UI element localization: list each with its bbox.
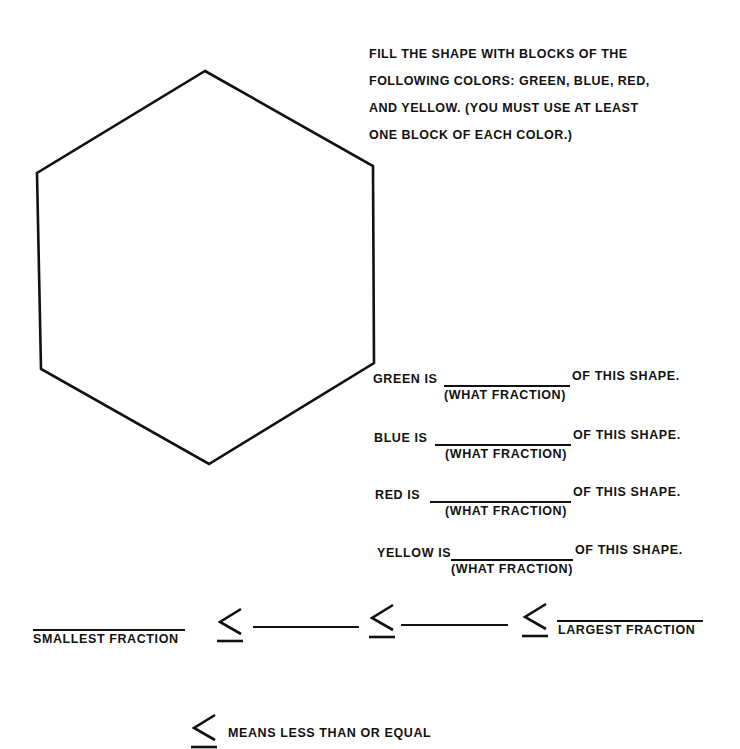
less-than-or-equal-icon [369,603,395,639]
yellow-suffix: OF THIS SHAPE. [575,543,683,557]
red-fraction-question: RED IS OF THIS SHAPE. (WHAT FRACTION) [375,488,735,528]
red-label: RED IS [375,488,420,502]
yellow-fraction-question: YELLOW IS OF THIS SHAPE. (WHAT FRACTION) [377,546,737,586]
blue-hint: (WHAT FRACTION) [445,447,567,461]
green-label: GREEN IS [373,372,438,386]
green-answer-blank[interactable] [444,385,570,387]
red-answer-blank[interactable] [430,501,571,503]
less-than-or-equal-icon [522,602,548,638]
smallest-fraction-label: SMALLEST FRACTION [33,632,179,646]
instruction-line: FILL THE SHAPE WITH BLOCKS OF THE [369,41,729,68]
blue-label: BLUE IS [374,431,428,445]
less-than-or-equal-icon [191,713,217,749]
instructions-text: FILL THE SHAPE WITH BLOCKS OF THE FOLLOW… [369,41,729,149]
green-fraction-question: GREEN IS OF THIS SHAPE. (WHAT FRACTION) [373,372,733,412]
smallest-fraction-blank[interactable] [33,629,185,631]
yellow-hint: (WHAT FRACTION) [451,562,573,576]
red-suffix: OF THIS SHAPE. [573,485,681,499]
second-fraction-blank[interactable] [253,626,359,628]
red-hint: (WHAT FRACTION) [445,504,567,518]
hexagon-outline [37,71,374,464]
largest-fraction-blank[interactable] [557,620,703,622]
third-fraction-blank[interactable] [401,624,508,626]
less-than-or-equal-icon [217,607,243,643]
instruction-line: AND YELLOW. (YOU MUST USE AT LEAST [369,95,729,122]
legend-text: MEANS LESS THAN OR EQUAL [228,726,431,740]
instruction-line: FOLLOWING COLORS: GREEN, BLUE, RED, [369,68,729,95]
green-hint: (WHAT FRACTION) [444,388,566,402]
yellow-label: YELLOW IS [377,546,451,560]
blue-suffix: OF THIS SHAPE. [573,428,681,442]
green-suffix: OF THIS SHAPE. [572,369,680,383]
blue-answer-blank[interactable] [435,444,571,446]
instruction-line: ONE BLOCK OF EACH COLOR.) [369,122,729,149]
blue-fraction-question: BLUE IS OF THIS SHAPE. (WHAT FRACTION) [374,431,734,471]
yellow-answer-blank[interactable] [451,559,573,561]
largest-fraction-label: LARGEST FRACTION [558,623,695,637]
